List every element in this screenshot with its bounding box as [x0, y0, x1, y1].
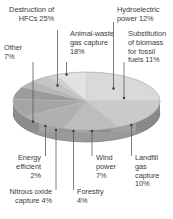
label-animal-waste: Animal-waste gas capture 18% — [70, 30, 118, 56]
label-substitution: Substitution of biomass for fossil fuels… — [128, 30, 173, 65]
label-wind: Wind power 7% — [96, 154, 130, 180]
label-destruction-hfcs: Destruction of HFCs 25% — [4, 6, 54, 24]
pie-top-face — [13, 72, 160, 130]
label-landfill: Landfill gas capture 10% — [135, 154, 173, 189]
label-other: Other 7% — [4, 44, 30, 62]
label-energy-efficient: Energy efficient 2% — [8, 154, 41, 180]
pie-slice — [87, 72, 161, 101]
label-hydroelectric: Hydroelectric power 12% — [117, 6, 171, 24]
label-nitrous: Nitrous oxide capture 4% — [2, 188, 52, 206]
label-forestry: Forestry 4% — [77, 188, 121, 206]
pie-chart-figure: Destruction of HFCs 25% Animal-waste gas… — [0, 0, 173, 219]
